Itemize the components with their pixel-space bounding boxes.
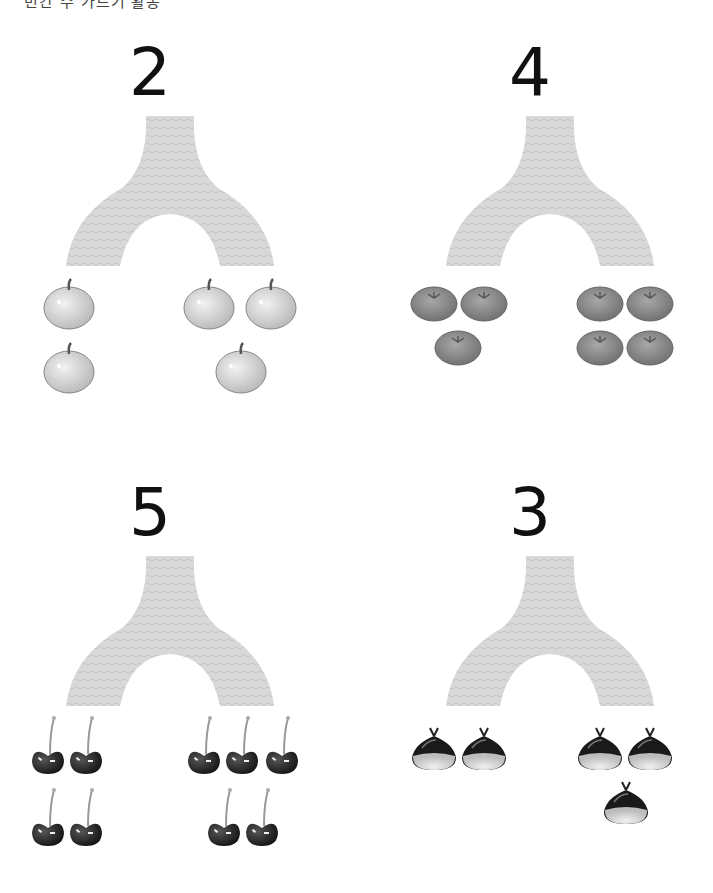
split-panel-4: 3 [390,478,690,868]
total-number: 3 [380,478,680,548]
apple-icon [42,340,96,394]
tomato-icon [626,284,674,322]
total-number: 2 [0,38,300,108]
tomato-icon [434,328,482,366]
chestnut-icon [626,724,674,772]
cherry-icon [30,788,66,848]
cherry-icon [224,716,260,776]
split-tree-shape [50,116,290,266]
split-tree-shape [50,556,290,706]
total-number: 5 [0,478,300,548]
split-panel-2: 4 [390,38,690,428]
apple-icon [182,276,236,330]
tomato-icon [576,284,624,322]
cherry-icon [68,788,104,848]
cherry-icon [30,716,66,776]
split-tree-shape [430,116,670,266]
split-panel-3: 5 [30,478,330,868]
worksheet-instruction: 빈칸 수 가르기 활동 [24,0,161,11]
tomato-icon [576,328,624,366]
split-panel-1: 2 [30,38,330,428]
cherry-icon [264,716,300,776]
cherry-icon [68,716,104,776]
chestnut-icon [602,778,650,826]
split-tree-shape [430,556,670,706]
chestnut-icon [460,724,508,772]
tomato-icon [626,328,674,366]
total-number: 4 [380,38,680,108]
chestnut-icon [410,724,458,772]
apple-icon [214,340,268,394]
cherry-icon [186,716,222,776]
tomato-icon [410,284,458,322]
apple-icon [42,276,96,330]
chestnut-icon [576,724,624,772]
apple-icon [244,276,298,330]
cherry-icon [206,788,242,848]
cherry-icon [244,788,280,848]
tomato-icon [460,284,508,322]
